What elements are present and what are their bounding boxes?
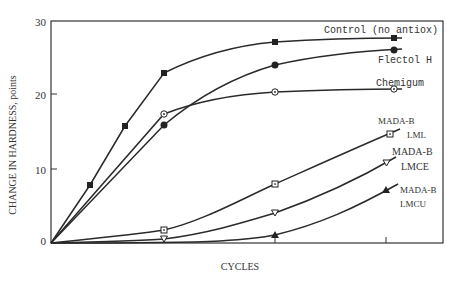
hardness-chart: 30 20 10 0 CHANGE IN HARDNESS, points CY… — [0, 0, 456, 286]
label-flectol: Flectol H — [378, 55, 432, 66]
y-tick-10: 10 — [35, 164, 47, 176]
series-lmcu-line — [51, 184, 398, 243]
series-lml-line — [51, 129, 400, 243]
y-axis-label: CHANGE IN HARDNESS, points — [7, 75, 18, 215]
series-flectol-line — [51, 49, 402, 243]
lmce-markers — [161, 160, 391, 242]
series-lmce-line — [51, 157, 396, 243]
series-chemigum-line — [51, 89, 402, 243]
label-lmce-line1: MADA-B — [392, 146, 433, 157]
label-lmcu-line1: MADA-B — [400, 185, 437, 195]
control-markers — [87, 35, 397, 188]
label-lmcu-line2: LMCU — [400, 199, 427, 209]
x-axis-label: CYCLES — [221, 261, 259, 272]
lmcu-markers — [271, 186, 390, 238]
label-chemigum: Chemigum — [376, 78, 424, 89]
y-tick-30: 30 — [35, 16, 47, 28]
label-lml-line1: MADA-B — [378, 116, 415, 126]
y-axis — [51, 94, 57, 169]
label-lmce-line2: LMCE — [401, 161, 429, 172]
y-tick-0: 0 — [41, 235, 47, 247]
label-control: Control (no antiox) — [324, 25, 438, 36]
label-lml-line2: LML — [407, 130, 426, 140]
y-tick-20: 20 — [35, 89, 47, 101]
series-control-line — [51, 38, 402, 243]
